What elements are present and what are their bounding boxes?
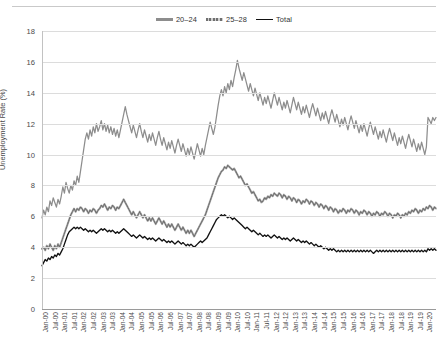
x-tick-label: Jan-02: [80, 312, 87, 332]
y-tick-label: 12: [27, 119, 35, 128]
x-tick-label: Jan-05: [138, 312, 145, 332]
x-tick-label: Jul-11: [263, 312, 270, 329]
grid-line: [42, 247, 436, 248]
x-tick-label: Jan-19: [407, 312, 414, 332]
x-tick-label: Jan-08: [196, 312, 203, 332]
x-tick-label: Jan-20: [426, 312, 433, 332]
chart-legend: 20–24 25–28 Total: [0, 15, 448, 24]
x-tick-label: Jul-12: [282, 312, 289, 330]
grid-line: [42, 62, 436, 63]
x-tick-label: Jul-10: [244, 312, 251, 330]
y-tick-label: 14: [27, 88, 35, 97]
y-tick-label: 0: [31, 305, 35, 314]
legend-item-20-24[interactable]: 20–24: [156, 15, 197, 24]
grid-line: [42, 124, 436, 125]
legend-label-total: Total: [276, 15, 292, 24]
grid-line: [42, 216, 436, 217]
x-tick-label: Jan-04: [119, 312, 126, 332]
grid-line: [42, 185, 436, 186]
y-tick-label: 2: [31, 274, 35, 283]
x-tick-label: Jan-18: [388, 312, 395, 332]
x-tick-label: Jul-07: [186, 312, 193, 330]
x-tick-label: Jul-02: [90, 312, 97, 330]
legend-swatch-total-icon: [256, 19, 273, 21]
grid-line: [42, 93, 436, 94]
x-tick-label: Jan-12: [273, 312, 280, 332]
x-tick-label: Jan-01: [61, 312, 68, 332]
y-tick-label: 8: [31, 181, 35, 190]
legend-item-25-28[interactable]: 25–28: [206, 15, 247, 24]
legend-item-total[interactable]: Total: [256, 15, 292, 24]
y-tick-label: 16: [27, 57, 35, 66]
y-tick-label: 18: [27, 27, 35, 36]
x-tick-label: Jan-11: [253, 312, 260, 332]
grid-line: [42, 278, 436, 279]
x-tick-label: Jul-15: [340, 312, 347, 330]
x-tick-label: Jan-07: [177, 312, 184, 332]
x-tick-label: Jul-00: [52, 312, 59, 330]
x-tick-label: Jan-13: [292, 312, 299, 332]
top-divider: [12, 6, 436, 7]
chart-container: 20–24 25–28 Total Unemployment Rate (%) …: [0, 0, 448, 356]
legend-swatch-25-28-icon: [206, 18, 223, 21]
legend-label-20-24: 20–24: [176, 15, 197, 24]
x-tick-label: Jan-16: [350, 312, 357, 332]
x-tick-label: Jan-09: [215, 312, 222, 332]
x-tick-label: Jul-05: [148, 312, 155, 330]
x-tick-label: Jan-17: [369, 312, 376, 332]
x-axis-tick-labels: Jan-00Jul-00Jan-01Jul-01Jan-02Jul-02Jan-…: [42, 312, 436, 356]
x-axis-line: [42, 309, 436, 310]
line-series-20-24: [42, 60, 436, 218]
x-tick-label: Jan-00: [42, 312, 49, 332]
x-tick-label: Jul-03: [109, 312, 116, 330]
y-axis-line: [42, 31, 43, 309]
legend-swatch-20-24-icon: [156, 18, 173, 21]
x-tick-label: Jan-06: [157, 312, 164, 332]
x-tick-label: Jan-15: [330, 312, 337, 332]
x-tick-label: Jul-06: [167, 312, 174, 330]
grid-line: [42, 31, 436, 32]
y-tick-label: 4: [31, 243, 35, 252]
x-tick-label: Jan-10: [234, 312, 241, 332]
x-tick-label: Jul-19: [417, 312, 424, 330]
x-tick-label: Jul-13: [301, 312, 308, 330]
x-tick-label: Jul-14: [321, 312, 328, 330]
line-series-total: [42, 215, 436, 266]
y-tick-label: 6: [31, 212, 35, 221]
x-tick-label: Jul-04: [128, 312, 135, 330]
x-tick-label: Jul-18: [398, 312, 405, 330]
series-layer: [42, 31, 436, 309]
y-axis-tick-labels: 024681012141618: [0, 31, 38, 309]
y-tick-label: 10: [27, 150, 35, 159]
plot-area: [42, 31, 436, 309]
x-tick-label: Jan-03: [100, 312, 107, 332]
x-tick-label: Jan-14: [311, 312, 318, 332]
x-tick-label: Jul-09: [225, 312, 232, 330]
x-tick-label: Jul-17: [378, 312, 385, 330]
x-tick-label: Jul-08: [205, 312, 212, 330]
x-tick-label: Jul-16: [359, 312, 366, 330]
grid-line: [42, 155, 436, 156]
legend-label-25-28: 25–28: [226, 15, 247, 24]
x-tick-label: Jul-01: [71, 312, 78, 330]
